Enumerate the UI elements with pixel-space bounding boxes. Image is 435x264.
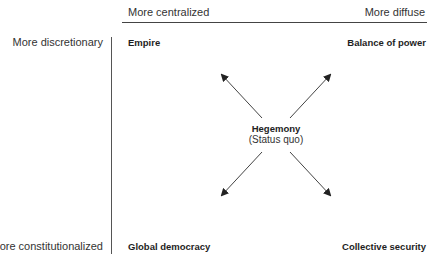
- axis-label-more-discretionary: More discretionary: [13, 36, 103, 48]
- arrow-to-collective-security: [290, 152, 330, 195]
- corner-collective-security: Collective security: [342, 241, 426, 252]
- center-label: Hegemony (Status quo): [226, 123, 326, 145]
- corner-empire: Empire: [128, 37, 160, 48]
- corner-global-democracy: Global democracy: [128, 241, 210, 252]
- arrow-to-global-democracy: [222, 152, 262, 195]
- axis-label-more-diffuse: More diffuse: [365, 6, 425, 18]
- axis-label-more-centralized: More centralized: [128, 6, 209, 18]
- axis-label-more-constitutionalized: More constitutionalized: [0, 240, 103, 252]
- arrow-to-empire: [222, 75, 262, 118]
- center-subtitle: (Status quo): [226, 134, 326, 145]
- arrow-to-balance-of-power: [290, 75, 330, 118]
- center-title: Hegemony: [226, 123, 326, 134]
- corner-balance-of-power: Balance of power: [347, 37, 426, 48]
